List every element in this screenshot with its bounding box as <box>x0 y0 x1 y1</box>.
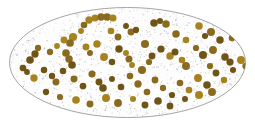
particle-dot <box>72 96 80 104</box>
particle-dot <box>213 70 220 77</box>
particle-dot <box>154 97 162 105</box>
particle-dot <box>31 50 38 57</box>
particle-dot <box>115 34 122 41</box>
particle-dot <box>195 22 203 30</box>
particle-dot <box>109 76 115 82</box>
particle-dot <box>157 18 163 24</box>
ellipse-particle-field <box>0 0 255 126</box>
particle-dot <box>203 81 211 89</box>
particle-dot <box>71 76 78 83</box>
particle-dot <box>81 22 88 29</box>
particle-dot <box>109 14 116 21</box>
particle-dot <box>127 73 134 80</box>
particle-dot <box>194 74 202 82</box>
particle-dot <box>24 69 30 75</box>
particle-dot <box>186 87 193 94</box>
particle-dot <box>199 51 207 59</box>
particle-dot <box>179 57 186 64</box>
particle-dot <box>68 61 76 69</box>
particle-dot <box>129 62 135 68</box>
particle-dot <box>144 89 151 96</box>
particle-dot <box>57 94 63 100</box>
particle-dot <box>41 67 48 74</box>
particle-dot <box>152 77 159 84</box>
particle-dot <box>157 45 164 52</box>
particle-dot <box>123 23 129 29</box>
particle-dot <box>123 50 129 56</box>
particle-dot <box>150 19 157 26</box>
particle-dot <box>177 80 184 87</box>
particle-dot <box>100 53 108 61</box>
particle-dot <box>30 74 37 81</box>
particle-dot <box>226 58 233 65</box>
particle-dot <box>118 84 125 91</box>
particle-dot <box>102 94 110 102</box>
particle-dot <box>149 53 156 60</box>
particle-dot <box>172 30 180 38</box>
particle-dot <box>49 73 55 79</box>
particle-dot <box>138 66 146 74</box>
particle-dot <box>208 88 216 96</box>
particle-dot <box>87 50 93 56</box>
particle-dot <box>182 62 190 70</box>
particle-dot <box>93 40 100 47</box>
particle-dot <box>125 55 132 62</box>
particle-dot <box>237 56 245 64</box>
particle-dot <box>183 37 190 44</box>
particle-dot <box>35 45 41 51</box>
particle-dot <box>43 89 49 95</box>
particle-dot <box>53 79 60 86</box>
particle-dot <box>207 63 213 69</box>
particle-dot <box>54 43 60 49</box>
particle-dot <box>61 37 68 44</box>
figure-container <box>0 0 255 126</box>
particle-dot <box>60 68 66 74</box>
particle-dot <box>99 84 107 92</box>
particle-dot <box>47 49 53 55</box>
particle-dot <box>182 96 188 102</box>
particle-dot <box>167 103 174 110</box>
particle-dot <box>142 102 149 109</box>
particle-dot <box>83 44 90 51</box>
particle-dot <box>78 28 84 34</box>
particle-dot <box>195 91 203 99</box>
particle-dot <box>114 99 122 107</box>
particle-dot <box>26 56 34 64</box>
particle-dot <box>162 20 170 28</box>
particle-dot <box>169 92 175 98</box>
particle-dot <box>171 48 178 55</box>
particle-dot <box>130 96 136 102</box>
particle-dot <box>207 28 215 36</box>
particle-dot <box>87 101 94 108</box>
particle-dot <box>134 80 141 87</box>
particle-dot <box>109 59 116 66</box>
particle-dot <box>133 27 139 33</box>
particle-dot <box>221 77 227 83</box>
particle-dot <box>108 28 115 35</box>
particle-dot <box>216 36 223 43</box>
particle-dot <box>96 79 103 86</box>
particle-dot <box>88 70 95 77</box>
particle-dot <box>209 46 217 54</box>
particle-dot <box>193 45 199 51</box>
particle-dot <box>202 33 208 39</box>
particle-dot <box>160 85 166 91</box>
particle-dot <box>115 45 122 52</box>
particle-dot <box>80 83 87 90</box>
particle-dot <box>230 67 236 73</box>
particle-dot <box>146 59 152 65</box>
particle-dot <box>141 40 149 48</box>
